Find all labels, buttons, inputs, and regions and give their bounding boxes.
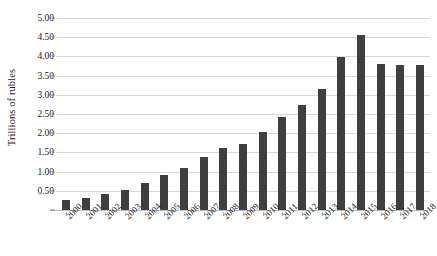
bar-2010[interactable] [259, 132, 267, 210]
bar-2015[interactable] [357, 35, 365, 210]
y-tick-mark [50, 152, 55, 153]
y-tick-mark [50, 190, 55, 191]
bar-2014[interactable] [337, 57, 345, 210]
y-tick-mark [50, 210, 55, 211]
bar-2011[interactable] [278, 117, 286, 210]
bar-2017[interactable] [396, 65, 404, 210]
bar-2007[interactable] [200, 157, 208, 210]
y-tick-mark [50, 94, 55, 95]
y-tick-mark [50, 171, 55, 172]
plot-area [56, 18, 430, 210]
y-tick-mark [50, 133, 55, 134]
y-tick-mark [50, 75, 55, 76]
bar-2008[interactable] [219, 148, 227, 210]
y-axis-tick-labels: -0.501.001.502.002.503.003.504.004.505.0… [14, 18, 54, 210]
y-tick-mark [50, 18, 55, 19]
bar-chart: Trillions of rubles -0.501.001.502.002.5… [0, 0, 437, 256]
bar-series [56, 18, 430, 210]
bar-2018[interactable] [416, 65, 424, 210]
bar-2006[interactable] [180, 168, 188, 210]
bar-2012[interactable] [298, 105, 306, 210]
bar-2016[interactable] [377, 64, 385, 210]
y-tick-mark [50, 56, 55, 57]
bar-2005[interactable] [160, 175, 168, 210]
x-axis-tick-labels: 2000200120022003200420052006200720082009… [56, 212, 430, 256]
bar-2013[interactable] [318, 89, 326, 210]
y-tick-mark [50, 37, 55, 38]
bar-2004[interactable] [141, 183, 149, 210]
y-tick-mark [50, 114, 55, 115]
bar-2009[interactable] [239, 144, 247, 210]
